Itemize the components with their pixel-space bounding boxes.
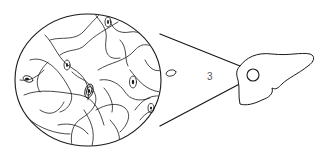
magnification-cone <box>160 34 250 126</box>
diagram-label: 3 <box>207 71 213 82</box>
magnified-tissue-oval <box>15 14 177 148</box>
sample-point-circle <box>247 69 259 81</box>
liver-magnification-diagram <box>0 0 320 154</box>
